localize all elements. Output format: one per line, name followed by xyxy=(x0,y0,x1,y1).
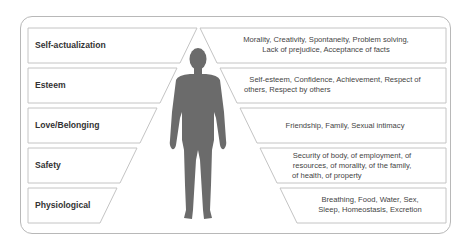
desc-line: Sleep, Homeostasis, Excretion xyxy=(300,205,440,215)
desc-line: resources, of morality, of the family, xyxy=(272,161,432,171)
desc-line: others, Respect by others xyxy=(232,85,438,95)
level-desc-physiological: Breathing, Food, Water, Sex, Sleep, Home… xyxy=(300,195,440,215)
desc-line: Morality, Creativity, Spontaneity, Probl… xyxy=(216,35,436,45)
level-label-safety: Safety xyxy=(35,160,61,170)
human-silhouette-icon xyxy=(170,48,227,219)
level-label-love-belonging: Love/Belonging xyxy=(35,120,99,130)
desc-line: Friendship, Family, Sexual intimacy xyxy=(250,121,440,131)
desc-line: Lack of prejudice, Acceptance of facts xyxy=(216,45,436,55)
desc-line: Breathing, Food, Water, Sex, xyxy=(300,195,440,205)
desc-line: Self-esteem, Confidence, Achievement, Re… xyxy=(232,75,438,85)
level-desc-self-actualization: Morality, Creativity, Spontaneity, Probl… xyxy=(216,35,436,55)
level-desc-esteem: Self-esteem, Confidence, Achievement, Re… xyxy=(232,75,438,95)
level-desc-love-belonging: Friendship, Family, Sexual intimacy xyxy=(250,121,440,131)
level-desc-safety: Security of body, of employment, of reso… xyxy=(272,151,432,181)
desc-line: of health, of property xyxy=(272,171,432,181)
level-label-self-actualization: Self-actualization xyxy=(35,40,106,50)
desc-line: Security of body, of employment, of xyxy=(272,151,432,161)
level-label-esteem: Esteem xyxy=(35,80,66,90)
level-label-physiological: Physiological xyxy=(35,200,90,210)
